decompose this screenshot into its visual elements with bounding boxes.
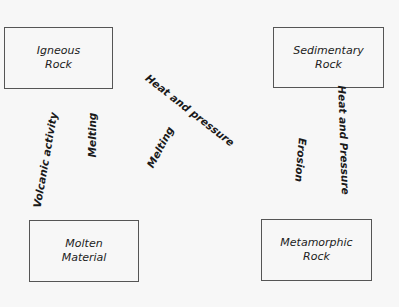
molten-material-label-line2: Material [62, 251, 107, 265]
sedimentary-rock-label-line2: Rock [293, 58, 363, 72]
molten-material-box: Molten Material [29, 220, 139, 282]
metamorphic-rock-label-line2: Rock [280, 250, 352, 264]
igneous-rock-box: Igneous Rock [4, 27, 113, 89]
metamorphic-rock-label-line1: Metamorphic [280, 236, 352, 250]
edge-label-heat-and-pressure-sedimentary: Heat and Pressure [336, 85, 352, 195]
igneous-rock-label-line1: Igneous [37, 44, 80, 58]
igneous-rock-label-line2: Rock [37, 58, 80, 72]
sedimentary-rock-box: Sedimentary Rock [273, 27, 384, 88]
molten-material-label-line1: Molten [62, 237, 107, 251]
edge-label-volcanic-activity: Volcanic activity [31, 111, 60, 208]
edge-label-erosion: Erosion [293, 138, 309, 183]
metamorphic-rock-box: Metamorphic Rock [261, 219, 372, 281]
sedimentary-rock-label-line1: Sedimentary [293, 44, 363, 58]
edge-label-melting-igneous: Melting [86, 113, 98, 158]
edge-label-melting-metamorphic: Melting [144, 124, 176, 169]
